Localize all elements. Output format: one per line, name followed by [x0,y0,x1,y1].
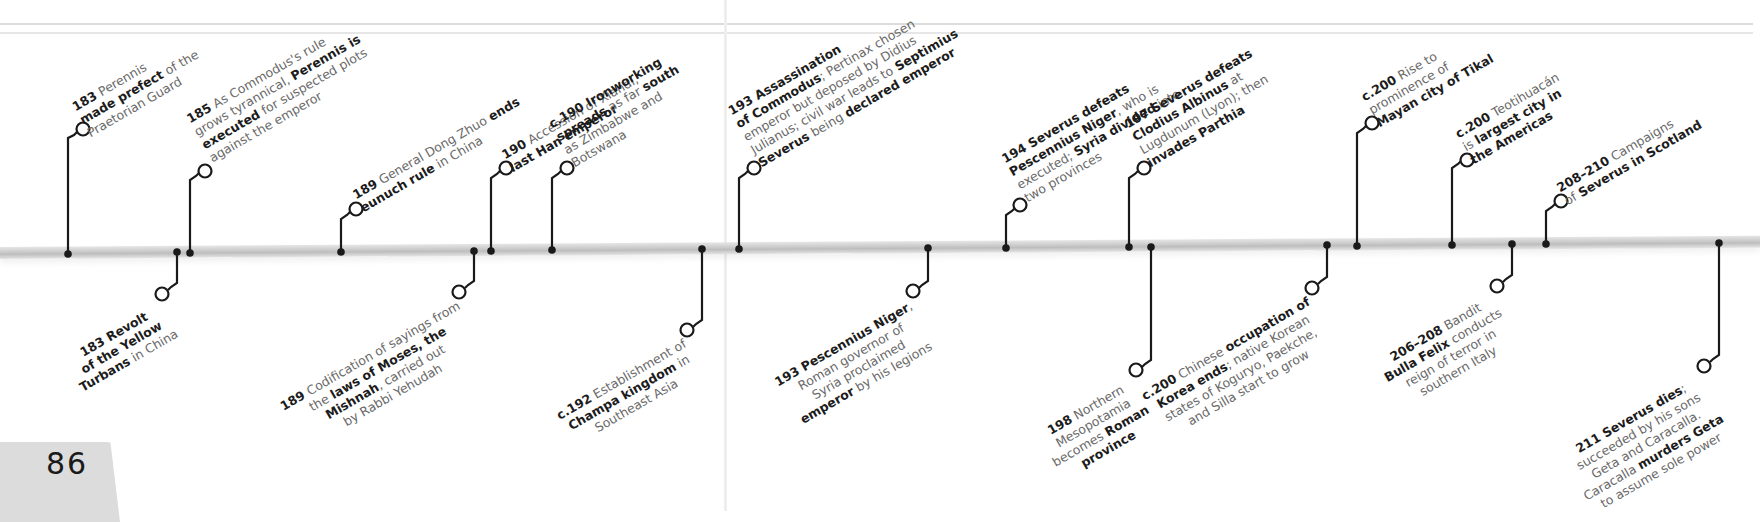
connector-ec190 [552,162,574,251]
connector-e197 [1129,162,1151,248]
connector-e211 [1698,243,1720,373]
connector-e193-niger [907,248,929,298]
connector-ec200-teo [1452,154,1474,246]
connector-e183-perennis [68,123,90,255]
connector-e194 [1006,199,1027,249]
connector-e208 [1546,195,1568,245]
connector-e190 [491,162,513,252]
connector-ec192 [681,249,703,337]
connector-e193-assassination [739,162,761,250]
connector-e183-yellow [156,252,178,301]
connector-e189-mishnah [453,251,475,299]
connector-e189-dong [341,203,363,253]
connector-e198 [1130,247,1152,377]
connector-ec200-korea [1306,245,1328,295]
connector-e206 [1491,244,1513,293]
connector-e185 [190,165,212,254]
page-number: 86 [46,446,88,481]
connector-ec200-tikal [1357,117,1379,247]
